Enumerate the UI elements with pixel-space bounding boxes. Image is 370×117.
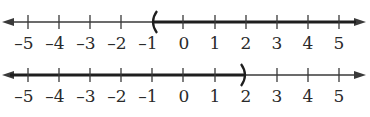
left-arrow-icon	[2, 18, 14, 26]
tick-label: –5	[14, 33, 33, 52]
tick-label: 1	[210, 33, 221, 52]
tick-label: –2	[107, 33, 126, 52]
tick-label: –4	[45, 33, 64, 52]
tick-label: –3	[76, 86, 95, 105]
number-line-top-svg: –5 –4 –3 –2 –1 0 1 2 3 4 5	[0, 0, 370, 52]
tick-label: 3	[272, 86, 283, 105]
tick-label: –4	[45, 86, 64, 105]
tick-label: 4	[303, 86, 314, 105]
right-arrow-icon	[354, 71, 366, 79]
tick-label: –1	[138, 86, 157, 105]
tick-label: 2	[241, 33, 252, 52]
tick-label: 0	[179, 86, 190, 105]
tick-label: 1	[210, 86, 221, 105]
tick-label: 3	[272, 33, 283, 52]
tick-label: 0	[179, 33, 190, 52]
tick-label: 5	[334, 86, 345, 105]
tick-label: –1	[138, 33, 157, 52]
tick-label: 5	[334, 33, 345, 52]
tick-label: –3	[76, 33, 95, 52]
tick-label: 4	[303, 33, 314, 52]
number-line-top: –5 –4 –3 –2 –1 0 1 2 3 4 5	[0, 0, 370, 52]
tick-label: 2	[241, 86, 252, 105]
tick-labels: –5 –4 –3 –2 –1 0 1 2 3 4 5	[14, 86, 344, 105]
tick-labels: –5 –4 –3 –2 –1 0 1 2 3 4 5	[14, 33, 344, 52]
tick-label: –5	[14, 86, 33, 105]
number-line-bottom: –5 –4 –3 –2 –1 0 1 2 3 4 5	[0, 53, 370, 105]
number-line-bottom-svg: –5 –4 –3 –2 –1 0 1 2 3 4 5	[0, 53, 370, 105]
tick-label: –2	[107, 86, 126, 105]
